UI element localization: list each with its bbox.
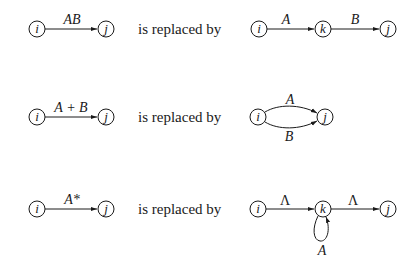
edge-label: AB (62, 12, 81, 27)
node-i: i (250, 109, 266, 125)
diagram-canvas: AB i j A B i k j A + B (0, 0, 419, 267)
node-i: i (29, 109, 45, 125)
edge-i-j-lower (265, 121, 317, 128)
node-k: k (315, 21, 331, 37)
node-i: i (250, 201, 266, 217)
svg-text:i: i (257, 21, 261, 36)
node-k: k (315, 201, 331, 217)
node-j: j (380, 21, 396, 37)
edge-label: Λ (280, 193, 291, 208)
node-j: j (380, 201, 396, 217)
edge-label: B (285, 129, 294, 144)
node-j: j (98, 109, 114, 125)
edge-i-j-upper (265, 106, 317, 113)
edge-label: Λ (348, 193, 359, 208)
node-i: i (29, 21, 45, 37)
svg-text:i: i (35, 21, 39, 36)
node-i: i (251, 21, 267, 37)
node-j: j (98, 201, 114, 217)
edge-k-k-loop (314, 216, 328, 241)
replaced-by-text: is replaced by (138, 109, 221, 126)
edge-label: B (351, 12, 360, 27)
rule-concatenation-right: A B i k j (251, 12, 396, 37)
node-j: j (317, 109, 333, 125)
edge-label: A + B (53, 100, 88, 115)
rule-closure-left: A* i j (29, 192, 114, 217)
rule-union-left: A + B i j (29, 100, 114, 125)
replaced-by-text: is replaced by (138, 201, 221, 218)
svg-text:k: k (320, 21, 326, 36)
edge-label: A* (63, 192, 80, 207)
svg-text:i: i (256, 109, 260, 124)
rule-union-right: A B i j (250, 92, 333, 144)
node-i: i (29, 201, 45, 217)
rule-concatenation-left: AB i j (29, 12, 114, 37)
replaced-by-text: is replaced by (138, 21, 221, 38)
svg-text:k: k (320, 201, 326, 216)
node-j: j (98, 21, 114, 37)
edge-label: A (281, 12, 291, 27)
svg-text:i: i (35, 109, 39, 124)
edge-label: A (285, 92, 295, 107)
svg-text:i: i (256, 201, 260, 216)
rule-closure-right: Λ Λ A i k j (250, 193, 396, 258)
edge-label: A (317, 243, 327, 258)
svg-text:i: i (35, 201, 39, 216)
